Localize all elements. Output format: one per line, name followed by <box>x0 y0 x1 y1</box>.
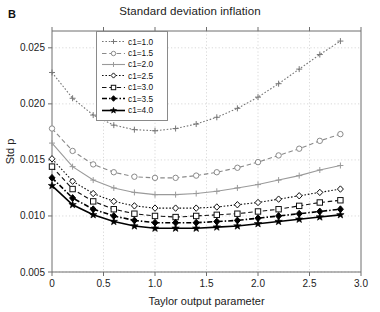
marker-star <box>89 211 96 218</box>
x-tick-label: 3.0 <box>354 278 368 289</box>
y-tick-label: 0.025 <box>20 42 45 53</box>
marker-star <box>172 224 179 231</box>
marker-square <box>70 186 75 191</box>
marker-plus <box>234 105 240 111</box>
legend-item-c115: c1=1.5 <box>100 47 163 58</box>
marker-circle <box>194 173 199 178</box>
marker-plus <box>131 189 137 195</box>
marker-plus <box>255 182 261 188</box>
marker-square <box>317 200 322 205</box>
marker-square <box>91 199 96 204</box>
marker-circle <box>214 170 219 175</box>
x-tick-label: 0.5 <box>97 278 111 289</box>
marker-diamond <box>255 199 261 205</box>
marker-circle <box>91 162 96 167</box>
marker-square <box>111 85 115 89</box>
marker-square <box>297 203 302 208</box>
legend-sample-star-filled-icon <box>100 105 127 116</box>
legend-item-c140: c1=4.0 <box>100 104 163 115</box>
marker-circle <box>317 138 322 143</box>
data-series-group <box>48 38 344 231</box>
marker-plus <box>193 121 199 127</box>
legend-item-c125: c1=2.5 <box>100 70 163 81</box>
marker-star <box>192 224 199 231</box>
data-series <box>49 38 343 134</box>
legend-label: c1=1.0 <box>128 37 153 47</box>
marker-plus <box>234 185 240 191</box>
marker-diamond <box>317 189 323 195</box>
marker-plus <box>90 177 96 183</box>
legend-label: c1=2.0 <box>128 59 153 69</box>
marker-circle <box>111 51 115 55</box>
marker-plus <box>214 114 220 120</box>
marker-circle <box>173 175 178 180</box>
figure-panel-b: B Standard deviation inflation 00.51.01.… <box>0 0 380 312</box>
marker-diamond <box>234 202 240 208</box>
x-tick-label: 2.0 <box>251 278 265 289</box>
marker-square <box>132 211 137 216</box>
marker-diamond-filled <box>111 96 116 102</box>
legend-item-c135: c1=3.5 <box>100 93 163 104</box>
legend-label: c1=4.0 <box>128 105 153 115</box>
marker-circle <box>111 170 116 175</box>
marker-diamond <box>214 204 220 210</box>
marker-diamond <box>337 186 343 192</box>
marker-square <box>255 209 260 214</box>
marker-diamond <box>276 196 282 202</box>
marker-star <box>110 218 117 225</box>
legend-sample-diamond-open-icon <box>100 70 127 81</box>
marker-circle <box>152 175 157 180</box>
legend-sample-plus-icon <box>100 36 127 47</box>
marker-diamond <box>173 205 179 211</box>
marker-star <box>337 211 344 218</box>
marker-diamond <box>90 190 96 196</box>
legend-sample-plus-icon <box>100 59 127 70</box>
marker-plus <box>214 188 220 194</box>
legend-sample-square-open-icon <box>100 82 127 93</box>
marker-star <box>110 107 116 113</box>
marker-plus <box>49 69 55 75</box>
marker-star <box>131 222 138 229</box>
legend-label: c1=3.5 <box>128 94 153 104</box>
marker-plus <box>152 128 158 134</box>
marker-plus <box>152 192 158 198</box>
marker-circle <box>276 153 281 158</box>
marker-plus <box>111 185 117 191</box>
chart-legend: c1=1.0c1=1.5c1=2.0c1=2.5c1=3.0c1=3.5c1=4… <box>96 31 168 121</box>
marker-plus <box>276 81 282 87</box>
marker-plus <box>255 94 261 100</box>
marker-circle <box>132 174 137 179</box>
legend-sample-circle-icon <box>100 48 127 59</box>
marker-square <box>214 212 219 217</box>
marker-star <box>275 218 282 225</box>
series-line <box>52 129 340 178</box>
legend-item-c110: c1=1.0 <box>100 36 163 47</box>
x-tick-label: 1.5 <box>200 278 214 289</box>
marker-plus <box>193 191 199 197</box>
legend-item-c120: c1=2.0 <box>100 59 163 70</box>
marker-square <box>276 207 281 212</box>
legend-label: c1=1.5 <box>128 48 153 58</box>
marker-circle <box>235 165 240 170</box>
legend-item-c130: c1=3.0 <box>100 82 163 93</box>
marker-square <box>49 164 54 169</box>
marker-square <box>194 213 199 218</box>
marker-plus <box>70 95 76 101</box>
marker-plus <box>276 177 282 183</box>
x-axis-label: Taylor output parameter <box>148 295 265 307</box>
marker-diamond <box>111 198 117 204</box>
marker-plus <box>131 127 137 133</box>
y-tick-label: 0.010 <box>20 210 45 221</box>
marker-square <box>111 207 116 212</box>
marker-diamond <box>152 205 158 211</box>
legend-label: c1=3.0 <box>128 82 153 92</box>
y-tick-label: 0.005 <box>20 267 45 278</box>
marker-circle <box>255 159 260 164</box>
marker-plus <box>111 39 116 44</box>
marker-diamond <box>131 203 137 209</box>
marker-plus <box>173 126 179 132</box>
legend-label: c1=2.5 <box>128 71 153 81</box>
legend-sample-diamond-filled-icon <box>100 93 127 104</box>
marker-plus <box>317 167 323 173</box>
marker-plus <box>111 62 116 67</box>
